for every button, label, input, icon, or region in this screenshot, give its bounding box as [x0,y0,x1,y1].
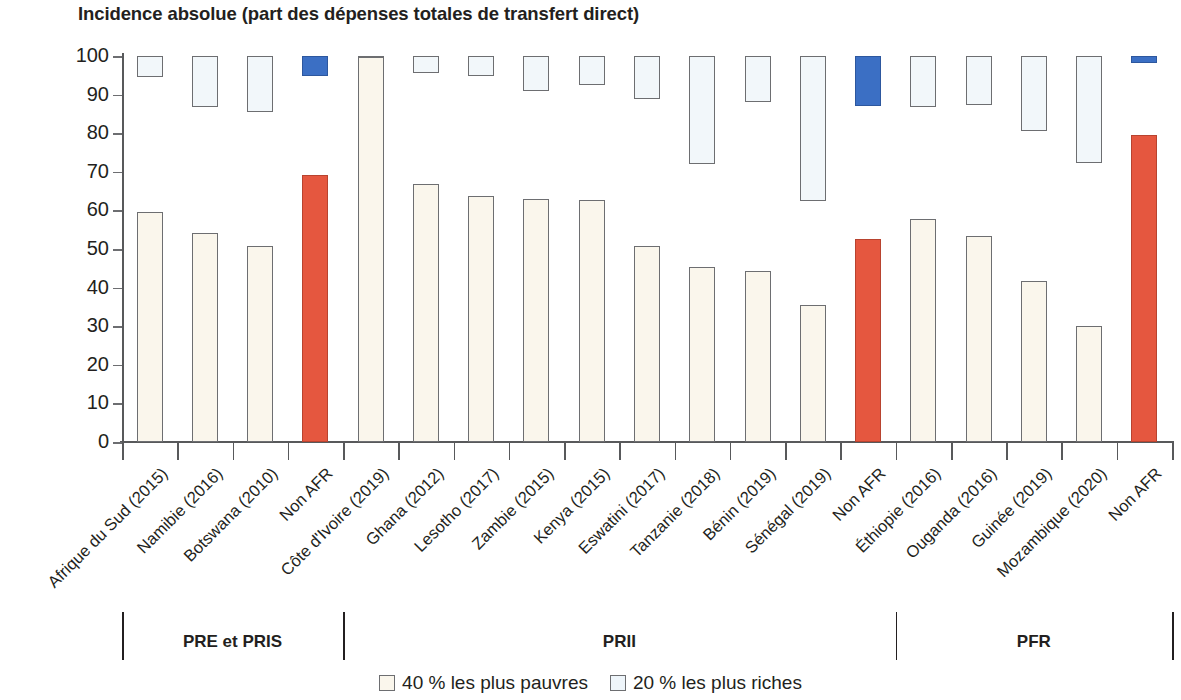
bar-poor [745,271,771,442]
bar-rich [579,56,605,85]
plot-area: 0102030405060708090100 [122,56,1172,442]
bar-poor [634,246,660,442]
bar-rich [302,56,328,76]
x-axis-tick-mark [1117,443,1119,460]
y-axis-tick-mark [113,95,122,97]
bar-poor [1021,281,1047,442]
bar-poor [302,175,328,442]
bar-poor [689,267,715,442]
x-axis-tick-mark [509,443,511,460]
bar-poor [1076,326,1102,442]
x-axis-tick-mark [730,443,732,460]
bar-poor [579,200,605,442]
chart-legend: 40 % les plus pauvres 20 % les plus rich… [0,672,1181,694]
legend-item-poor: 40 % les plus pauvres [379,672,588,694]
x-axis-tick-mark [343,443,345,460]
bar-rich [137,56,163,77]
x-axis-tick-mark [619,443,621,460]
bar-rich [689,56,715,164]
group-label: PFR [1017,632,1051,652]
y-axis-tick-mark [113,210,122,212]
legend-label-poor: 40 % les plus pauvres [402,672,588,694]
y-axis-tick-label: 50 [87,237,109,260]
x-axis-tick-mark [398,443,400,460]
bar-poor [413,184,439,442]
group-separator [122,612,124,660]
bar-poor [800,305,826,442]
bar-poor [966,236,992,442]
bar-rich [910,56,936,107]
legend-label-rich: 20 % les plus riches [633,672,802,694]
bar-rich [800,56,826,201]
x-axis-tick-mark [1006,443,1008,460]
bar-rich [247,56,273,112]
bar-rich [1131,56,1157,63]
bar-rich [745,56,771,102]
y-axis-tick-mark [113,172,122,174]
bar-poor [855,239,881,442]
y-axis-tick-label: 80 [87,121,109,144]
bar-poor [247,246,273,442]
y-axis-tick-mark [113,249,122,251]
y-axis-tick-mark [113,56,122,58]
y-axis-tick-label: 20 [87,353,109,376]
group-label: PRE et PRIS [183,632,282,652]
y-axis-tick-label: 100 [76,44,109,67]
y-axis-tick-mark [113,326,122,328]
bar-poor [358,57,384,442]
bar-poor [1131,135,1157,442]
x-axis-category-label: Non AFR [1105,464,1166,525]
bar-rich [1076,56,1102,163]
bar-rich [523,56,549,91]
legend-item-rich: 20 % les plus riches [610,672,802,694]
chart-title: Incidence absolue (part des dépenses tot… [78,3,639,25]
bar-poor [523,199,549,442]
y-axis-tick-label: 10 [87,391,109,414]
group-separator [896,612,898,660]
x-axis-tick-mark [785,443,787,460]
x-axis-tick-mark [122,443,124,460]
y-axis-tick-label: 60 [87,198,109,221]
bar-poor [468,196,494,442]
y-axis-tick-mark [113,133,122,135]
bar-poor [910,219,936,442]
bar-poor [137,212,163,442]
bar-rich [634,56,660,99]
x-axis-tick-mark [233,443,235,460]
bar-rich [1021,56,1047,131]
y-axis-tick-label: 0 [98,430,109,453]
bar-poor [192,233,218,442]
y-axis-tick-mark [113,288,122,290]
y-axis-tick-label: 90 [87,83,109,106]
bar-rich [966,56,992,105]
x-axis-tick-mark [288,443,290,460]
bar-rich [468,56,494,76]
y-axis-tick-label: 30 [87,314,109,337]
x-axis-tick-mark [675,443,677,460]
y-axis-tick-mark [113,442,122,444]
group-separator [343,612,345,660]
x-axis-tick-mark [454,443,456,460]
x-axis-tick-mark [951,443,953,460]
bar-rich [855,56,881,106]
group-label: PRII [603,632,636,652]
x-axis-tick-mark [896,443,898,460]
x-axis-category-label: Mozambique (2020) [993,464,1110,581]
x-axis-tick-mark [1061,443,1063,460]
y-axis-tick-label: 40 [87,276,109,299]
x-axis-tick-mark [1172,443,1174,460]
y-axis-tick-label: 70 [87,160,109,183]
x-axis-tick-mark [177,443,179,460]
bar-rich [413,56,439,73]
bar-rich [192,56,218,107]
group-separator [1172,612,1174,660]
x-axis-tick-mark [564,443,566,460]
y-axis-tick-mark [113,403,122,405]
chart-container: Incidence absolue (part des dépenses tot… [0,0,1181,700]
x-axis-category-label: Botswana (2010) [180,464,282,566]
y-axis-tick-mark [113,365,122,367]
legend-swatch-poor-icon [379,675,395,691]
x-axis-tick-mark [840,443,842,460]
legend-swatch-rich-icon [610,675,626,691]
